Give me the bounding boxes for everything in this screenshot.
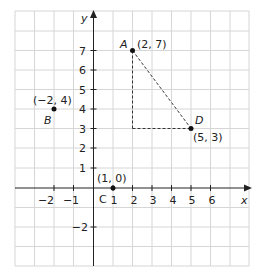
point-c-name: C — [99, 193, 107, 206]
point-b-name: B — [44, 114, 52, 127]
x-tick-label: 5 — [189, 194, 196, 207]
coordinate-grid: y x −2 −1 1 2 3 4 5 6 7 6 5 4 3 2 1 −2 A… — [0, 0, 262, 274]
x-axis-label: x — [240, 194, 248, 207]
x-tick-label: 1 — [111, 194, 118, 207]
point-d-name: D — [195, 114, 203, 127]
point-a-coords: (2, 7) — [137, 38, 167, 51]
x-tick-label: 2 — [131, 194, 138, 207]
x-tick-label: −1 — [63, 194, 79, 207]
point-d-coords: (5, 3) — [193, 131, 223, 144]
point-a-name: A — [119, 38, 128, 51]
y-tick-label: 5 — [79, 84, 86, 97]
y-tick-label: 1 — [79, 162, 86, 175]
x-tick-label: 4 — [170, 194, 177, 207]
x-tick-label: 3 — [150, 194, 157, 207]
point-a — [130, 48, 135, 53]
y-tick-label: 4 — [79, 103, 86, 116]
point-b — [52, 107, 57, 112]
x-axis-arrow-icon — [244, 185, 252, 192]
y-tick-label: 6 — [79, 64, 86, 77]
y-tick-label: −2 — [72, 221, 88, 234]
y-tick-label: 2 — [79, 142, 86, 155]
y-tick-label: 3 — [79, 123, 86, 136]
point-c — [111, 186, 116, 191]
y-tick-label: 7 — [79, 45, 86, 58]
x-tick-label: 6 — [209, 194, 216, 207]
x-tick-label: −2 — [38, 194, 54, 207]
y-axis-label: y — [80, 12, 88, 25]
point-c-coords: (1, 0) — [97, 172, 127, 185]
point-b-coords: (−2, 4) — [33, 94, 72, 107]
